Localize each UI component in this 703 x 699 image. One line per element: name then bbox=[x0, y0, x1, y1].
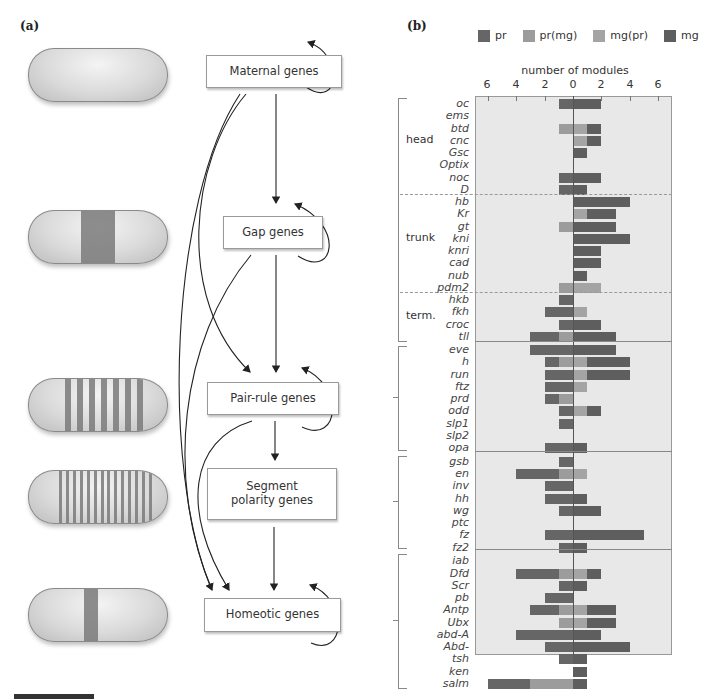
gene-label: tsh bbox=[430, 653, 469, 665]
x-tick: 4 bbox=[510, 78, 522, 91]
legend-swatch-mg bbox=[664, 30, 676, 42]
bar-mg bbox=[587, 605, 615, 615]
gene-label: prd bbox=[430, 393, 469, 405]
gene-label: kni bbox=[430, 233, 469, 245]
plot-tick bbox=[601, 96, 602, 101]
gene-label: noc bbox=[430, 172, 469, 184]
bar-mg bbox=[573, 667, 587, 677]
bar-pr-mg bbox=[559, 618, 573, 628]
legend-swatch-pr bbox=[478, 30, 490, 42]
bar-pr bbox=[516, 630, 573, 640]
bar-pr bbox=[559, 581, 573, 591]
gene-label: ftz bbox=[430, 381, 469, 393]
bar-pr bbox=[559, 654, 573, 664]
gene-label: ems bbox=[430, 110, 469, 122]
x-tick: 6 bbox=[481, 78, 493, 91]
gene-label: iab bbox=[430, 555, 469, 567]
bar-pr-mg bbox=[559, 357, 573, 367]
bar-pr bbox=[559, 320, 573, 330]
gene-label: pb bbox=[430, 592, 469, 604]
bar-pr bbox=[545, 357, 559, 367]
bar-mg bbox=[573, 320, 601, 330]
plot-tick bbox=[658, 96, 659, 101]
bar-pr-mg bbox=[559, 605, 573, 615]
gene-label: run bbox=[430, 369, 469, 381]
bar-mg bbox=[573, 246, 601, 256]
plot-tick bbox=[545, 96, 546, 101]
gene-label: ken bbox=[430, 666, 469, 678]
footer-bar bbox=[14, 694, 94, 699]
bar-pr bbox=[545, 307, 573, 317]
gene-label: hh bbox=[430, 493, 469, 505]
bar-pr bbox=[530, 605, 558, 615]
gene-label: abd-A bbox=[430, 629, 469, 641]
bar-mg-pr bbox=[573, 209, 587, 219]
gene-label: cnc bbox=[430, 135, 469, 147]
gene-label: D bbox=[430, 184, 469, 196]
bar-mg-pr bbox=[573, 469, 587, 479]
separator-segpol-homeotic bbox=[475, 549, 672, 550]
bar-mg bbox=[587, 618, 615, 628]
gene-label: Kr bbox=[430, 208, 469, 220]
bar-pr bbox=[545, 593, 573, 603]
gene-label: nub bbox=[430, 270, 469, 282]
gene-label: Optix bbox=[430, 159, 469, 171]
bracket-segment-polarity bbox=[398, 456, 407, 549]
chart-legend: pr pr(mg) mg(pr) mg bbox=[478, 29, 703, 42]
bar-mg bbox=[573, 642, 630, 652]
separator-gap-pairrule bbox=[475, 341, 672, 342]
gene-label: opa bbox=[430, 442, 469, 454]
plot-tick bbox=[488, 96, 489, 101]
bar-mg bbox=[573, 148, 587, 158]
bar-pr bbox=[530, 345, 573, 355]
gene-label: salm bbox=[430, 678, 469, 690]
gene-label: Ubx bbox=[430, 617, 469, 629]
gene-label: knri bbox=[430, 245, 469, 257]
bar-mg-pr bbox=[573, 370, 587, 380]
bar-mg-pr bbox=[573, 618, 587, 628]
segment-polarity-genes-box: Segment polarity genes bbox=[207, 468, 337, 520]
panel-b-label: (b) bbox=[407, 19, 427, 33]
bar-mg-pr bbox=[573, 307, 587, 317]
bar-pr bbox=[559, 419, 573, 429]
gene-label: Scr bbox=[430, 580, 469, 592]
bar-pr bbox=[516, 569, 559, 579]
bar-pr bbox=[559, 406, 573, 416]
legend-swatch-pr-mg bbox=[523, 30, 535, 42]
gene-label: oc bbox=[430, 98, 469, 110]
legend-label-mg-pr: mg(pr) bbox=[610, 29, 648, 42]
bar-pr-mg bbox=[559, 394, 573, 404]
bar-pr bbox=[545, 642, 573, 652]
bar-mg-pr bbox=[573, 382, 587, 392]
gene-label: odd bbox=[430, 405, 469, 417]
bar-mg bbox=[587, 569, 601, 579]
x-tick: 2 bbox=[539, 78, 551, 91]
gene-label: slp2 bbox=[430, 430, 469, 442]
legend-item-pr: pr bbox=[478, 29, 507, 42]
regulatory-arrows bbox=[0, 0, 400, 699]
gene-label: h bbox=[430, 356, 469, 368]
maternal-genes-box: Maternal genes bbox=[206, 55, 342, 88]
bar-mg-pr bbox=[573, 136, 587, 146]
bar-mg bbox=[573, 630, 601, 640]
bar-mg bbox=[573, 197, 630, 207]
gene-label: Abd- bbox=[430, 641, 469, 653]
gene-label: fz2 bbox=[430, 542, 469, 554]
gene-label: inv bbox=[430, 480, 469, 492]
bar-mg bbox=[587, 370, 630, 380]
bar-mg bbox=[573, 679, 587, 689]
bar-pr-mg bbox=[559, 222, 573, 232]
bar-mg bbox=[587, 124, 601, 134]
pair-rule-genes-box: Pair-rule genes bbox=[207, 382, 339, 415]
bar-pr-mg bbox=[530, 679, 573, 689]
gene-label: hkb bbox=[430, 294, 469, 306]
gene-label: wg bbox=[430, 505, 469, 517]
bar-mg bbox=[573, 99, 601, 109]
bar-pr bbox=[545, 530, 573, 540]
bracket-tick bbox=[393, 620, 399, 621]
bar-pr-mg bbox=[559, 469, 573, 479]
gene-label: eve bbox=[430, 344, 469, 356]
gap-genes-box: Gap genes bbox=[223, 216, 323, 249]
bar-mg bbox=[573, 530, 644, 540]
bar-mg bbox=[573, 234, 630, 244]
